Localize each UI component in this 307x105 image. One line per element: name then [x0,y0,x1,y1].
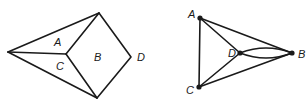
region-label-b: B [94,51,101,63]
edge-a-c [199,18,200,87]
edge-d-b-upper [240,48,292,53]
region-label-d: D [137,51,145,63]
diagram-canvas: A C B D A D B C [0,0,307,105]
planar-map: A C B D [8,13,145,98]
region-label-c: C [56,60,64,72]
vertex-label-c: C [186,84,194,96]
vertex-a [197,15,202,20]
map-inner-bottom-edge [66,54,97,98]
vertex-label-a: A [187,8,195,20]
vertex-c [196,84,201,89]
map-right-edges [97,13,131,98]
region-label-a: A [53,36,61,48]
map-outer-bottom-edge [8,52,97,98]
vertex-d [237,50,242,55]
edge-c-b [199,53,292,87]
edge-d-b-lower [240,53,292,58]
edge-a-b [200,18,292,53]
dual-graph: A D B C [186,8,305,96]
vertex-b [289,50,294,55]
vertex-label-b: B [298,48,305,60]
vertex-label-d: D [228,47,236,59]
map-middle-edge [8,52,66,54]
map-inner-top-edge [66,13,99,54]
